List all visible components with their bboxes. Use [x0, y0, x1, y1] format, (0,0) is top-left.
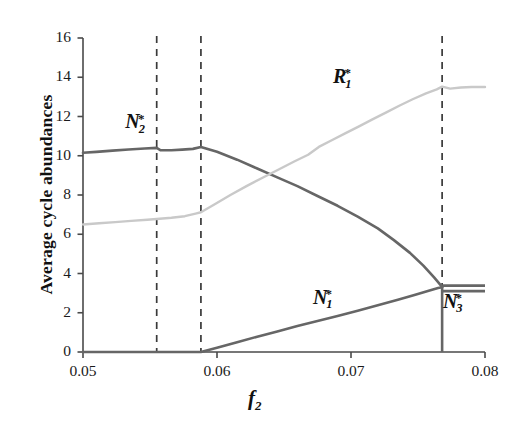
- label-n3-sup: *: [456, 290, 463, 305]
- label-r1-sup: *: [345, 65, 352, 80]
- y-tick-label-4: 4: [19, 264, 71, 282]
- y-tick-label-0: 0: [19, 342, 71, 360]
- curve-label-n2: N2*: [125, 111, 144, 135]
- y-tick-label-12: 12: [19, 107, 71, 125]
- x-axis-title: f2: [248, 386, 262, 414]
- curve-label-n3: N3*: [443, 291, 462, 315]
- curve-r1: [83, 87, 485, 225]
- y-tick-label-14: 14: [19, 67, 71, 85]
- axes-group: [78, 38, 486, 358]
- x-tick-label-0.08: 0.08: [455, 362, 515, 380]
- x-tick-label-0.06: 0.06: [187, 362, 247, 380]
- x-tick-label-0.07: 0.07: [321, 362, 381, 380]
- curve-label-r1: R1*: [333, 66, 351, 90]
- label-n2-sup: *: [138, 111, 145, 126]
- y-tick-label-6: 6: [19, 224, 71, 242]
- x-axis-title-sub: 2: [255, 398, 262, 413]
- curve-n1: [83, 287, 442, 352]
- figure-container: Average cycle abundances f2 N2* R1* N1* …: [0, 0, 520, 434]
- y-tick-label-10: 10: [19, 146, 71, 164]
- y-tick-label-2: 2: [19, 303, 71, 321]
- curve-n2: [83, 147, 442, 287]
- x-axis-title-base: f: [248, 386, 255, 410]
- y-tick-label-8: 8: [19, 185, 71, 203]
- y-tick-label-16: 16: [19, 28, 71, 46]
- threshold-lines-group: [157, 36, 442, 352]
- curve-label-n1: N1*: [313, 287, 332, 311]
- label-n1-sup: *: [326, 286, 333, 301]
- x-tick-label-0.05: 0.05: [53, 362, 113, 380]
